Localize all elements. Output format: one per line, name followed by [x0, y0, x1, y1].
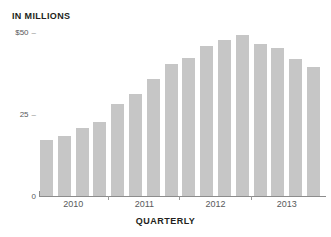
bar [307, 67, 320, 197]
y-axis-origin-cap [39, 191, 40, 197]
y-tick-dash: – [32, 110, 36, 119]
y-tick-value: 0 [32, 192, 36, 201]
bar [129, 94, 142, 197]
y-axis-tick-50: $50– [2, 28, 36, 37]
bar [58, 136, 71, 197]
x-axis-tick [251, 196, 252, 200]
bar [271, 48, 284, 197]
cropped-top-text [30, 0, 190, 4]
y-tick-dash: – [32, 28, 36, 37]
plot-area [40, 33, 325, 197]
bar [218, 40, 231, 197]
bar [165, 64, 178, 197]
y-axis-tick-0: 0 [2, 192, 36, 201]
bar [40, 140, 53, 197]
x-axis-label-2012: 2012 [206, 199, 226, 209]
y-axis-unit-label: IN MILLIONS [12, 11, 70, 21]
bar [254, 44, 267, 197]
y-tick-value: $50 [15, 28, 28, 37]
bar [147, 79, 160, 197]
y-tick-value: 25 [20, 110, 29, 119]
bar [289, 59, 302, 197]
x-axis-tick [108, 196, 109, 200]
x-axis-label-2010: 2010 [63, 199, 83, 209]
bar [182, 58, 195, 197]
chart-figure: IN MILLIONS $50–25–0 2010201120122013 QU… [0, 0, 331, 237]
x-axis-tick [179, 196, 180, 200]
bar [236, 35, 249, 197]
y-axis-tick-25: 25– [2, 110, 36, 119]
bar [76, 128, 89, 197]
x-axis-line [39, 196, 326, 197]
bar [111, 104, 124, 197]
x-axis-label-2011: 2011 [135, 199, 154, 209]
bar [93, 122, 106, 197]
x-axis-label-2013: 2013 [277, 199, 297, 209]
x-axis-title: QUARTERLY [0, 216, 331, 226]
bar [200, 46, 213, 197]
